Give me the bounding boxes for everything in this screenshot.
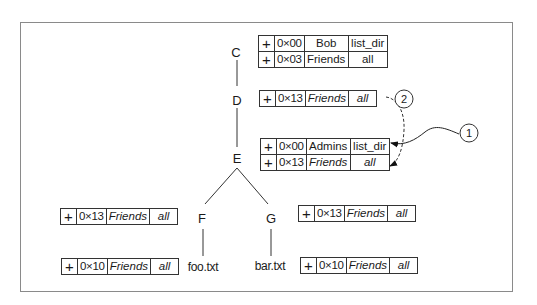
- acl-id: 0×00: [275, 36, 305, 52]
- plus-sign: +: [261, 139, 277, 155]
- acl-perm: all: [388, 206, 416, 222]
- acl-principal: Friends: [344, 206, 387, 222]
- tree-node-c: C: [231, 46, 240, 59]
- acl-row: + 0×13 Friends all: [261, 155, 390, 171]
- acl-perm: list_dir: [348, 36, 387, 52]
- acl-principal: Bob: [304, 36, 348, 52]
- acl-id: 0×10: [317, 258, 347, 274]
- acl-id: 0×13: [276, 91, 306, 107]
- acl-principal: Friends: [304, 52, 348, 68]
- acl-perm: all: [350, 155, 389, 171]
- callout-2: 2: [395, 90, 414, 109]
- acl-id: 0×13: [315, 206, 345, 222]
- callout-1: 1: [460, 124, 479, 143]
- acl-table-f: + 0×13 Friends all: [60, 208, 178, 225]
- acl-id: 0×10: [78, 259, 108, 275]
- acl-table-g: + 0×13 Friends all: [298, 205, 416, 222]
- acl-table-foo: + 0×10 Friends all: [61, 258, 179, 275]
- acl-row: + 0×13 Friends all: [61, 209, 178, 225]
- acl-table-bar: + 0×10 Friends all: [300, 257, 418, 274]
- acl-row: + 0×03 Friends all: [259, 52, 388, 68]
- acl-perm: all: [150, 209, 178, 225]
- acl-id: 0×03: [275, 52, 305, 68]
- acl-perm: all: [151, 259, 179, 275]
- file-foo-txt: foo.txt: [188, 261, 219, 273]
- file-bar-txt: bar.txt: [255, 260, 286, 272]
- acl-perm: list_dir: [350, 139, 389, 155]
- acl-table-d: + 0×13 Friends all: [259, 90, 377, 107]
- acl-principal: Friends: [107, 259, 150, 275]
- acl-principal: Friends: [346, 258, 389, 274]
- plus-sign: +: [260, 91, 276, 107]
- acl-id: 0×13: [277, 155, 307, 171]
- acl-row: + 0×10 Friends all: [301, 258, 418, 274]
- tree-node-g: G: [266, 212, 276, 225]
- acl-row: + 0×10 Friends all: [62, 259, 179, 275]
- acl-principal: Friends: [305, 91, 348, 107]
- acl-table-e: + 0×00 Admins list_dir + 0×13 Friends al…: [260, 138, 390, 171]
- acl-principal: Admins: [306, 139, 350, 155]
- plus-sign: +: [62, 259, 78, 275]
- acl-id: 0×13: [77, 209, 107, 225]
- plus-sign: +: [259, 36, 275, 52]
- tree-node-f: F: [198, 212, 206, 225]
- acl-perm: all: [390, 258, 418, 274]
- acl-perm: all: [349, 91, 377, 107]
- acl-principal: Friends: [106, 209, 149, 225]
- plus-sign: +: [259, 52, 275, 68]
- acl-row: + 0×00 Admins list_dir: [261, 139, 390, 155]
- acl-row: + 0×00 Bob list_dir: [259, 36, 388, 52]
- acl-row: + 0×13 Friends all: [299, 206, 416, 222]
- tree-node-d: D: [232, 94, 241, 107]
- acl-table-c: + 0×00 Bob list_dir + 0×03 Friends all: [258, 35, 388, 68]
- plus-sign: +: [299, 206, 315, 222]
- plus-sign: +: [301, 258, 317, 274]
- tree-node-e: E: [233, 152, 242, 165]
- acl-perm: all: [348, 52, 387, 68]
- plus-sign: +: [61, 209, 77, 225]
- acl-id: 0×00: [277, 139, 307, 155]
- acl-principal: Friends: [306, 155, 350, 171]
- acl-row: + 0×13 Friends all: [260, 91, 377, 107]
- plus-sign: +: [261, 155, 277, 171]
